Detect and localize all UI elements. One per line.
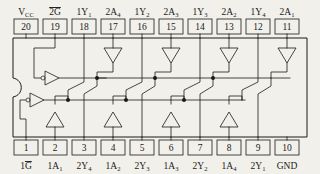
tristate-buffer-2A4 (104, 48, 122, 63)
pin-number-2: 2 (53, 143, 58, 153)
wire-bbuf3-to-pin14 (184, 38, 200, 100)
pin-number-17: 17 (108, 22, 118, 32)
tristate-buffer-2A3 (162, 48, 180, 63)
junction-dots (66, 76, 215, 102)
wire-buf1-to-pin9 (258, 78, 271, 137)
pin-label-15-sub: 3 (175, 11, 179, 18)
pin-number-13: 13 (224, 22, 234, 32)
inverter-bubble-2G-icon (41, 76, 45, 80)
bottom-pin-labels: 1G 1A1 2Y4 1A2 2Y3 1A3 2Y2 1A4 (20, 161, 297, 172)
pin-label-19: 2G (49, 7, 61, 17)
pin-label-8-sub: 4 (233, 165, 237, 172)
tristate-buffer-2A1 (278, 48, 296, 63)
pin-number-8: 8 (227, 143, 232, 153)
wire-buf1-out (271, 63, 287, 78)
inverter-triangle-2G-icon (45, 71, 59, 85)
wire-buf3-out (155, 63, 171, 78)
package-body-outline (13, 38, 307, 137)
pin-number-9: 9 (256, 143, 261, 153)
tristate-buffer-1A1 (46, 112, 64, 127)
buffer-triangle-2A3-icon (162, 48, 180, 63)
pin-label-20-sub: CC (25, 11, 34, 18)
pin-label-13-sub: 2 (233, 11, 236, 18)
pin-label-16-main: 1Y (135, 7, 147, 17)
wire-1G-to-inverter (20, 100, 26, 137)
wire-bbuf2-to-pin16 (126, 38, 142, 100)
pin-label-8-main: 1A (222, 161, 234, 171)
junction-dot-top-1 (95, 76, 99, 80)
wire-2G-to-inverter (34, 38, 55, 78)
pin-number-12: 12 (253, 22, 263, 32)
pin-label-1-main: G (25, 161, 32, 171)
junction-dot-bot-2 (124, 98, 128, 102)
pin-label-6-sub: 3 (175, 165, 179, 172)
enable-inverter-2G (41, 71, 59, 85)
wire-bbuf1-to-pin18 (68, 38, 84, 100)
pin-number-19: 19 (50, 22, 60, 32)
junction-dot-top-3 (211, 76, 215, 80)
pin-label-5: 2Y3 (135, 161, 151, 172)
inverter-triangle-1G-icon (30, 93, 44, 107)
pin-label-18-main: 1Y (77, 7, 89, 17)
pin-label-8: 1A4 (222, 161, 238, 172)
pin-label-9: 2Y1 (251, 161, 266, 172)
pin-number-14: 14 (195, 22, 205, 32)
pin-label-6: 1A3 (164, 161, 180, 172)
pin-label-9-main: 2Y (251, 161, 263, 171)
pin-label-17-main: 2A (106, 7, 118, 17)
tristate-buffer-1A2 (104, 112, 122, 127)
pin-number-7: 7 (198, 143, 203, 153)
top-pin-numbers: 20 19 18 17 16 15 14 13 12 11 (21, 22, 292, 32)
wire-buf4-out-to-pin3 (97, 63, 113, 78)
pin-number-1: 1 (24, 143, 29, 153)
pin-label-10: GND (277, 161, 298, 171)
pin-label-5-sub: 3 (146, 165, 150, 172)
pin-label-3-main: 2Y (77, 161, 89, 171)
pin-label-7-sub: 2 (204, 165, 207, 172)
ic-pinout-diagram: 20 19 18 17 16 15 14 13 12 11 VCC 2G 1Y1… (0, 0, 320, 174)
pin-label-13: 2A2 (222, 7, 237, 18)
pin-number-3: 3 (82, 143, 87, 153)
junction-dot-bot-3 (182, 98, 186, 102)
pin-label-3: 2Y4 (77, 161, 93, 172)
pin-label-16-sub: 2 (146, 11, 149, 18)
enable-inverter-1G (26, 93, 44, 107)
pin-number-5: 5 (140, 143, 145, 153)
pin-label-3-sub: 4 (88, 165, 92, 172)
pin-label-15-main: 2A (164, 7, 176, 17)
wire-buf4-path-to-pin3 (84, 78, 97, 137)
pin-label-13-main: 2A (222, 7, 234, 17)
pin-label-4-main: 1A (106, 161, 118, 171)
pin-label-20: VCC (18, 7, 34, 18)
pin-label-2-main: 1A (48, 161, 60, 171)
pin-label-9-sub: 1 (262, 165, 265, 172)
pin-label-12-sub: 4 (262, 11, 266, 18)
pin-label-2-sub: 1 (59, 165, 62, 172)
bottom-pin-numbers: 1 2 3 4 5 6 7 8 9 10 (24, 143, 292, 153)
pin-number-16: 16 (137, 22, 147, 32)
wire-buf2-out (213, 63, 229, 78)
pin-label-4: 1A2 (106, 161, 121, 172)
wire-bbuf4-to-pin12 (242, 38, 258, 100)
tristate-buffer-1A3 (162, 112, 180, 127)
pin-label-1: 1G (20, 161, 32, 171)
pin-label-12-main: 1Y (251, 7, 263, 17)
tristate-buffer-1A4 (220, 112, 238, 127)
pin-label-17: 2A4 (106, 7, 122, 18)
pin-label-6-main: 1A (164, 161, 176, 171)
pin-label-14-sub: 3 (204, 11, 208, 18)
pin-label-14-main: 1Y (193, 7, 205, 17)
pin-number-6: 6 (169, 143, 174, 153)
pin-label-11-sub: 1 (291, 11, 294, 18)
pin-label-17-sub: 4 (117, 11, 121, 18)
pin-number-4: 4 (111, 143, 116, 153)
pin-label-5-main: 2Y (135, 161, 147, 171)
pin-label-7-main: 2Y (193, 161, 205, 171)
pin-label-7: 2Y2 (193, 161, 208, 172)
buffer-triangle-2A4-icon (104, 48, 122, 63)
pin-label-18-sub: 1 (88, 11, 91, 18)
pin-number-18: 18 (79, 22, 89, 32)
pin-label-18: 1Y1 (77, 7, 92, 18)
buffer-triangle-2A2-icon (220, 48, 238, 63)
pin-number-15: 15 (166, 22, 176, 32)
